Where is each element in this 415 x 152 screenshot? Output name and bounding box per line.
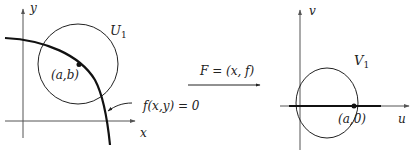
- map-arrow-group: F = (x, f): [188, 64, 260, 85]
- right-panel: v u V1 (a,0): [280, 4, 409, 150]
- point-a-b: [77, 62, 82, 67]
- point-a-0-label: (a,0): [338, 112, 366, 126]
- v-axis-label: v: [309, 4, 316, 18]
- implicit-function-diagram: y x U1 (a,b) f(x,y) = 0 F = (x, f) v u V…: [0, 0, 415, 152]
- curve-label: f(x,y) = 0: [142, 99, 200, 113]
- level-curve: [5, 38, 110, 145]
- map-label: F = (x, f): [199, 64, 255, 78]
- u1-label: U1: [110, 23, 127, 40]
- u-axis-label: u: [398, 112, 406, 126]
- point-a-0: [352, 104, 357, 109]
- v1-label: V1: [354, 53, 369, 70]
- left-panel: y x U1 (a,b) f(x,y) = 0: [5, 1, 200, 145]
- y-axis-label: y: [29, 1, 37, 15]
- curve-pointer-arrow: [108, 103, 132, 111]
- x-axis-label: x: [140, 126, 147, 140]
- neighborhood-v1: [296, 68, 358, 138]
- point-a-b-label: (a,b): [51, 68, 79, 82]
